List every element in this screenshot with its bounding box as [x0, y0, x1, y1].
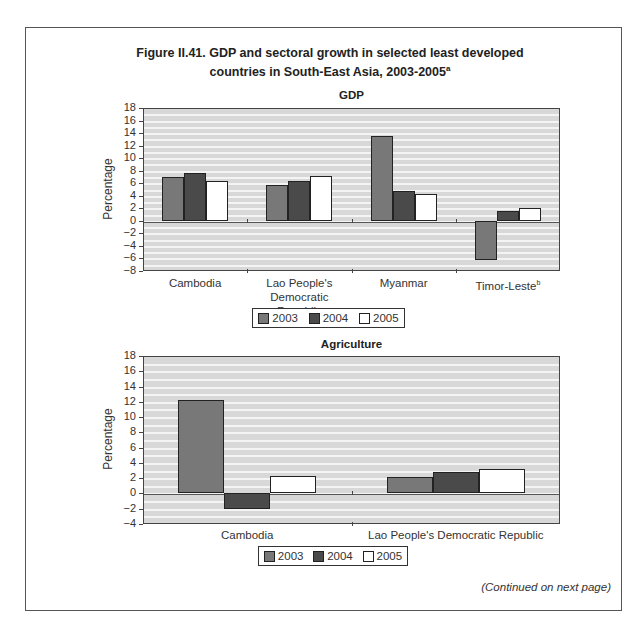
gridline — [144, 387, 559, 389]
gridline — [144, 379, 559, 381]
bar-2004-myanmar — [393, 191, 415, 221]
y-tick-mark — [139, 524, 143, 525]
legend-item-2003: 2003 — [264, 550, 304, 562]
x-category-label: Cambodia — [143, 528, 352, 542]
gridline — [144, 127, 559, 129]
y-tick-mark — [139, 417, 143, 418]
figure-title: Figure II.41. GDP and sectoral growth in… — [60, 45, 600, 80]
y-axis-label: Percentage — [101, 154, 115, 224]
y-tick-mark — [139, 402, 143, 403]
gridline — [144, 371, 559, 373]
legend-label: 2004 — [323, 312, 349, 324]
y-tick-mark — [139, 133, 143, 134]
legend-swatch-icon — [309, 313, 320, 324]
gridline — [144, 158, 559, 160]
x-tick-mark — [456, 269, 457, 273]
legend-item-2005: 2005 — [359, 312, 399, 324]
bar-2004-timor-leste — [497, 211, 519, 220]
y-tick-label: −6 — [106, 251, 136, 263]
bar-2004-lao-people-s-democratic-republic — [433, 472, 479, 493]
gridline — [144, 164, 559, 166]
y-tick-label: 14 — [106, 126, 136, 138]
y-tick-mark — [139, 158, 143, 159]
y-tick-label: 18 — [106, 349, 136, 361]
gridline — [144, 133, 559, 135]
bar-2005-timor-leste — [519, 208, 541, 221]
y-tick-mark — [139, 356, 143, 357]
chart-title: GDP — [143, 89, 560, 101]
y-tick-label: −4 — [106, 517, 136, 529]
legend-label: 2004 — [327, 550, 353, 562]
x-tick-mark — [352, 491, 353, 495]
gridline — [144, 139, 559, 141]
bar-2005-cambodia — [270, 476, 316, 494]
legend-label: 2005 — [373, 312, 399, 324]
y-tick-mark — [139, 221, 143, 222]
y-tick-mark — [139, 432, 143, 433]
x-tick-mark — [352, 522, 353, 526]
chart-legend: 200320042005 — [252, 308, 405, 328]
x-tick-mark — [247, 219, 248, 223]
gridline — [144, 171, 559, 173]
chart-legend: 200320042005 — [258, 546, 408, 566]
y-tick-mark — [139, 387, 143, 388]
y-tick-label: −2 — [106, 226, 136, 238]
y-tick-mark — [139, 246, 143, 247]
gridline — [144, 394, 559, 396]
bar-2004-lao-people-s-democratic-republic — [288, 181, 310, 221]
y-tick-mark — [139, 478, 143, 479]
y-tick-mark — [139, 448, 143, 449]
legend-swatch-icon — [359, 313, 370, 324]
bar-2004-cambodia — [184, 173, 206, 221]
x-tick-mark — [247, 269, 248, 273]
y-tick-mark — [139, 258, 143, 259]
legend-item-2005: 2005 — [363, 550, 403, 562]
gridline — [144, 265, 559, 267]
y-tick-label: −8 — [106, 264, 136, 276]
bar-2004-cambodia — [224, 493, 270, 508]
gridline — [144, 177, 559, 179]
y-tick-mark — [139, 121, 143, 122]
y-tick-label: −2 — [106, 502, 136, 514]
legend-label: 2003 — [272, 312, 298, 324]
continued-note: (Continued on next page) — [481, 581, 611, 593]
y-tick-label: 16 — [106, 114, 136, 126]
y-tick-mark — [139, 509, 143, 510]
legend-label: 2003 — [278, 550, 304, 562]
x-category-label: Timor-Lesteb — [456, 276, 560, 293]
y-tick-mark — [139, 183, 143, 184]
x-category-label: Myanmar — [352, 276, 456, 290]
y-tick-mark — [139, 208, 143, 209]
gridline — [144, 152, 559, 154]
bar-2003-lao-people-s-democratic-republic — [266, 185, 288, 221]
y-tick-mark — [139, 463, 143, 464]
y-tick-label: 14 — [106, 380, 136, 392]
legend-item-2003: 2003 — [258, 312, 298, 324]
x-tick-mark — [456, 219, 457, 223]
gridline — [144, 509, 559, 511]
y-tick-label: 18 — [106, 101, 136, 113]
bar-2005-myanmar — [415, 194, 437, 221]
figure-title-line2: countries in South-East Asia, 2003-2005a — [60, 61, 600, 80]
x-category-label: Cambodia — [143, 276, 247, 290]
y-tick-mark — [139, 233, 143, 234]
gridline — [144, 364, 559, 366]
y-tick-label: −4 — [106, 239, 136, 251]
bar-2003-myanmar — [371, 136, 393, 221]
y-tick-mark — [139, 108, 143, 109]
y-axis-label: Percentage — [101, 404, 115, 474]
bar-2005-lao-people-s-democratic-republic — [479, 469, 525, 493]
legend-swatch-icon — [363, 551, 374, 562]
legend-item-2004: 2004 — [313, 550, 353, 562]
y-tick-mark — [139, 146, 143, 147]
gridline — [144, 121, 559, 123]
legend-swatch-icon — [313, 551, 324, 562]
bar-2003-cambodia — [178, 400, 224, 493]
gridline — [144, 516, 559, 518]
y-tick-label: 0 — [106, 486, 136, 498]
figure-title-line1: Figure II.41. GDP and sectoral growth in… — [60, 45, 600, 61]
legend-item-2004: 2004 — [309, 312, 349, 324]
y-tick-mark — [139, 196, 143, 197]
y-tick-mark — [139, 271, 143, 272]
gridline — [144, 114, 559, 116]
